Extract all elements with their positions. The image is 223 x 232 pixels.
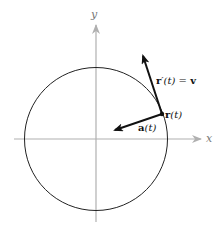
velocity-label-prime-t: ′(t)	[161, 75, 175, 86]
circular-motion-diagram: y x r′(t) = v r(t) a(t)	[0, 0, 223, 232]
x-axis-label: x	[206, 132, 213, 145]
position-point	[160, 112, 164, 116]
velocity-label: r′(t) = v	[156, 75, 197, 86]
coordinate-axes	[14, 25, 201, 222]
y-axis-label: y	[90, 8, 98, 21]
velocity-label-v: v	[189, 75, 197, 86]
acceleration-label: a(t)	[138, 122, 156, 133]
acceleration-label-t: (t)	[144, 122, 156, 133]
position-label-t: (t)	[170, 109, 182, 120]
velocity-label-equals: =	[175, 75, 190, 86]
position-label: r(t)	[165, 109, 182, 120]
